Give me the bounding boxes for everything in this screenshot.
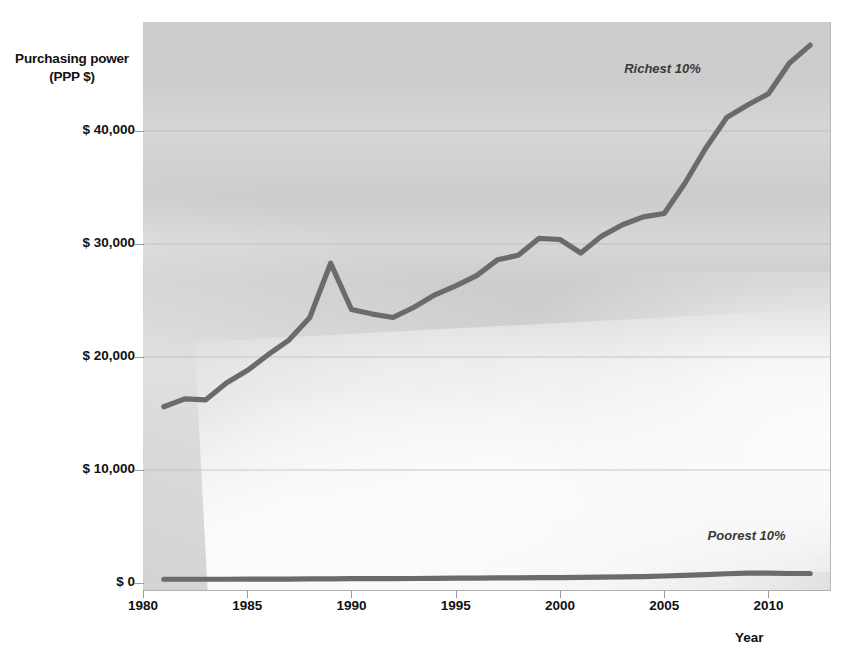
chart-figure: Purchasing power (PPP $) $ 0$ 10,000$ 20… — [0, 0, 861, 668]
x-tick-mark — [456, 590, 457, 598]
x-tick-mark — [560, 590, 561, 598]
x-tick-1985: 1985 — [232, 598, 262, 613]
x-tick-mark — [351, 590, 352, 598]
x-axis-line — [143, 590, 831, 591]
x-tick-mark — [768, 590, 769, 598]
y-tick-label: $ 10,000 — [0, 461, 135, 476]
x-tick-mark — [247, 590, 248, 598]
data-lines — [164, 45, 810, 579]
gridlines — [143, 131, 831, 583]
series-line-richest-10 — [164, 45, 810, 407]
y-tick-label: $ 20,000 — [0, 348, 135, 363]
x-tick-2010: 2010 — [753, 598, 783, 613]
plot-area: Richest 10%Poorest 10% — [143, 22, 831, 590]
y-axis-title: Purchasing power (PPP $) — [8, 50, 136, 86]
annotation-poorest-10: Poorest 10% — [708, 528, 786, 543]
x-tick-mark — [664, 590, 665, 598]
y-axis-title-line1: Purchasing power — [8, 50, 136, 68]
annotation-richest-10: Richest 10% — [624, 61, 701, 76]
y-tick-mark — [135, 357, 144, 358]
y-tick-mark — [135, 583, 144, 584]
x-tick-mark — [143, 590, 144, 598]
y-tick-label: $ 40,000 — [0, 122, 135, 137]
series-line-poorest-10 — [164, 573, 810, 579]
x-tick-2005: 2005 — [649, 598, 679, 613]
x-axis-title: Year — [735, 630, 764, 645]
x-tick-2000: 2000 — [545, 598, 575, 613]
x-tick-1990: 1990 — [336, 598, 366, 613]
x-tick-1980: 1980 — [128, 598, 158, 613]
x-tick-1995: 1995 — [441, 598, 471, 613]
y-tick-label: $ 30,000 — [0, 235, 135, 250]
y-axis-title-line2: (PPP $) — [8, 68, 136, 86]
y-tick-mark — [135, 131, 144, 132]
chart-svg — [143, 22, 831, 590]
y-tick-mark — [135, 470, 144, 471]
y-tick-mark — [135, 244, 144, 245]
y-tick-label: $ 0 — [0, 574, 135, 589]
